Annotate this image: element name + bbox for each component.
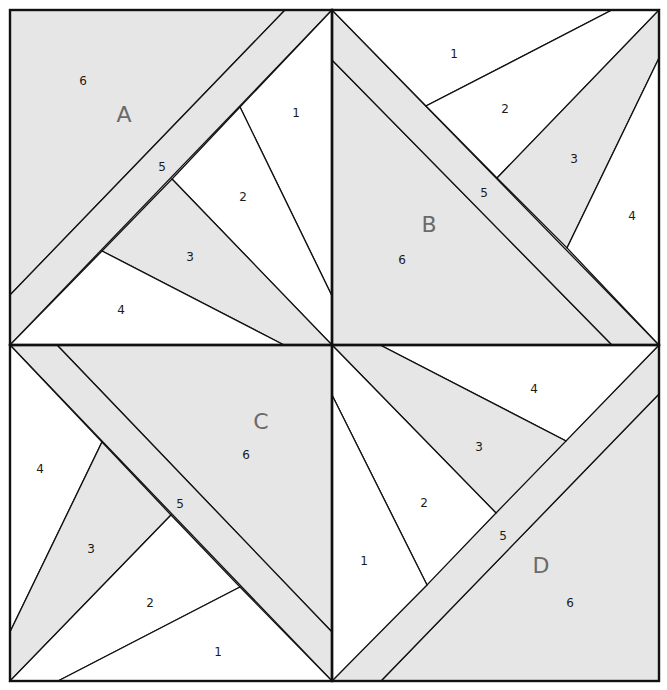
block-d-piece-2-number: 2 bbox=[420, 496, 428, 510]
block-b-piece-3-number: 3 bbox=[570, 152, 578, 166]
block-d: 4 3 2 5 1 D 6 bbox=[332, 345, 659, 681]
block-b-piece-5-number: 5 bbox=[480, 186, 488, 200]
block-c-piece-6-number: 6 bbox=[242, 448, 250, 462]
block-d-piece-4-number: 4 bbox=[530, 382, 538, 396]
block-d-piece-5-number: 5 bbox=[499, 529, 507, 543]
block-d-piece-3-number: 3 bbox=[475, 440, 483, 454]
block-c-piece-2-number: 2 bbox=[146, 596, 154, 610]
block-a-piece-1-number: 1 bbox=[292, 106, 300, 120]
block-a-piece-6-number: 6 bbox=[79, 74, 87, 88]
block-c-piece-5-number: 5 bbox=[176, 497, 184, 511]
block-d-piece-6-number: 6 bbox=[566, 596, 574, 610]
block-b-piece-6-number: 6 bbox=[398, 253, 406, 267]
block-b-piece-4-number: 4 bbox=[628, 209, 636, 223]
block-b: 1 2 3 4 5 B 6 bbox=[332, 10, 659, 345]
block-a-piece-5-number: 5 bbox=[158, 160, 166, 174]
block-b-label: B bbox=[421, 212, 436, 237]
quilt-pattern-diagram: 6 A 5 1 2 3 4 1 2 3 4 5 B 6 C 6 4 5 3 2 bbox=[0, 0, 667, 690]
block-c-piece-4-number: 4 bbox=[36, 462, 44, 476]
block-a-piece-2-number: 2 bbox=[239, 190, 247, 204]
block-d-piece-1-number: 1 bbox=[360, 554, 368, 568]
block-c-piece-1-number: 1 bbox=[214, 645, 222, 659]
block-b-piece-2-number: 2 bbox=[501, 102, 509, 116]
block-b-piece-1-number: 1 bbox=[450, 47, 458, 61]
block-a-piece-4-number: 4 bbox=[117, 303, 125, 317]
block-d-label: D bbox=[533, 553, 550, 578]
block-c-piece-3-number: 3 bbox=[87, 542, 95, 556]
block-a: 6 A 5 1 2 3 4 bbox=[10, 10, 332, 345]
block-a-piece-3-number: 3 bbox=[186, 250, 194, 264]
block-c-label: C bbox=[253, 409, 268, 434]
block-a-label: A bbox=[116, 102, 131, 127]
block-c: C 6 4 5 3 2 1 bbox=[10, 345, 332, 681]
